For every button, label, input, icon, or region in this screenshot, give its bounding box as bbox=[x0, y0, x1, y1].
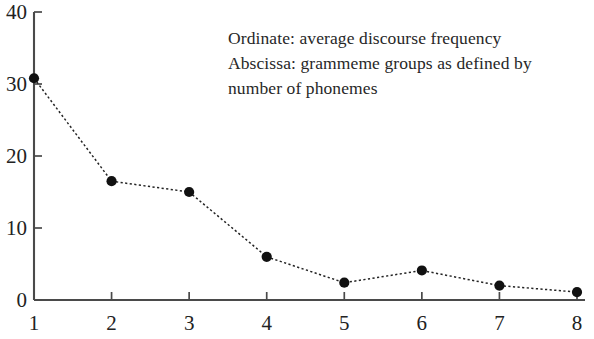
data-point-8 bbox=[572, 287, 582, 297]
x-tick-label-6: 6 bbox=[417, 311, 428, 335]
x-axis-tick-labels: 12345678 bbox=[29, 311, 583, 335]
data-point-7 bbox=[494, 281, 504, 291]
y-tick-label-20: 20 bbox=[6, 144, 27, 168]
x-tick-label-5: 5 bbox=[339, 311, 350, 335]
y-tick-label-40: 40 bbox=[6, 0, 27, 24]
chart-annotation-block: Ordinate: average discourse frequency Ab… bbox=[228, 26, 588, 101]
annotation-line-continuation: number of phonemes bbox=[228, 76, 588, 101]
y-axis-ticks bbox=[34, 12, 42, 300]
y-tick-label-10: 10 bbox=[6, 216, 27, 240]
chart-container: 010203040 12345678 Ordinate: average dis… bbox=[0, 0, 594, 339]
data-point-markers bbox=[29, 73, 582, 297]
data-point-2 bbox=[106, 176, 116, 186]
data-point-3 bbox=[184, 187, 194, 197]
annotation-line-abscissa: Abscissa: grammeme groups as defined by bbox=[228, 51, 588, 76]
y-tick-label-30: 30 bbox=[6, 72, 27, 96]
annotation-line-ordinate: Ordinate: average discourse frequency bbox=[228, 26, 588, 51]
x-tick-label-3: 3 bbox=[184, 311, 195, 335]
data-point-4 bbox=[262, 252, 272, 262]
x-tick-label-8: 8 bbox=[572, 311, 583, 335]
y-tick-label-0: 0 bbox=[17, 288, 28, 312]
data-point-6 bbox=[417, 265, 427, 275]
data-point-5 bbox=[339, 278, 349, 288]
x-axis-ticks bbox=[34, 292, 577, 300]
y-axis-tick-labels: 010203040 bbox=[6, 0, 27, 312]
x-tick-label-7: 7 bbox=[494, 311, 505, 335]
x-tick-label-2: 2 bbox=[106, 311, 117, 335]
x-tick-label-4: 4 bbox=[261, 311, 272, 335]
x-tick-label-1: 1 bbox=[29, 311, 40, 335]
data-point-1 bbox=[29, 73, 39, 83]
data-series-line bbox=[34, 78, 577, 292]
